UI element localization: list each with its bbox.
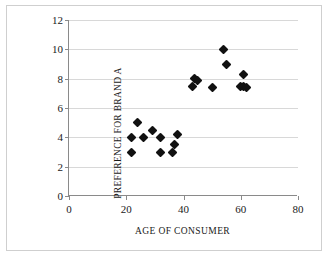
- y-tick-mark: [65, 108, 69, 109]
- data-point: [156, 147, 166, 157]
- x-tick-label: 40: [178, 203, 189, 215]
- gridline: [69, 137, 298, 138]
- y-tick-label: 0: [58, 190, 64, 202]
- data-point: [147, 125, 157, 135]
- y-axis-title: PREFERENCE FOR BRAND A: [113, 38, 123, 228]
- gridline: [69, 108, 298, 109]
- y-tick-mark: [65, 79, 69, 80]
- y-tick-mark: [65, 167, 69, 168]
- x-tick-label: 0: [66, 203, 72, 215]
- x-tick-mark: [241, 196, 242, 200]
- data-point: [221, 59, 231, 69]
- scatter-plot-figure: 024681012 020406080 PREFERENCE FOR BRAND…: [0, 0, 329, 259]
- gridline: [69, 79, 298, 80]
- x-tick-label: 60: [235, 203, 246, 215]
- y-tick-mark: [65, 137, 69, 138]
- data-point: [156, 132, 166, 142]
- x-tick-mark: [69, 196, 70, 200]
- y-tick-mark: [65, 20, 69, 21]
- y-tick-label: 12: [52, 14, 63, 26]
- y-tick-label: 8: [58, 73, 64, 85]
- y-tick-label: 4: [58, 131, 64, 143]
- gridline: [69, 167, 298, 168]
- x-tick-label: 80: [293, 203, 304, 215]
- data-point: [127, 132, 137, 142]
- gridline: [69, 49, 298, 50]
- gridline: [69, 20, 298, 21]
- y-tick-label: 2: [58, 161, 64, 173]
- data-point: [219, 44, 229, 54]
- data-point: [127, 147, 137, 157]
- x-axis-title: AGE OF CONSUMER: [68, 226, 297, 236]
- y-tick-mark: [65, 49, 69, 50]
- y-tick-label: 10: [52, 43, 63, 55]
- plot-area: 024681012 020406080 PREFERENCE FOR BRAND…: [68, 20, 297, 196]
- x-tick-mark: [298, 196, 299, 200]
- data-point: [138, 132, 148, 142]
- data-point: [133, 118, 143, 128]
- data-point: [207, 83, 217, 93]
- y-tick-label: 6: [58, 102, 64, 114]
- data-point: [167, 147, 177, 157]
- x-tick-mark: [126, 196, 127, 200]
- x-tick-mark: [184, 196, 185, 200]
